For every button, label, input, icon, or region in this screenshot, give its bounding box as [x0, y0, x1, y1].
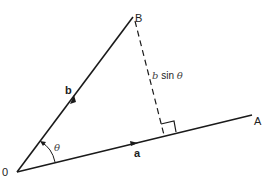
point-a-label: A — [254, 115, 262, 127]
vector-a-label: a — [134, 147, 141, 159]
vector-diagram: 0 B A b a θ b sin θ — [0, 0, 268, 183]
theta-label: θ — [54, 142, 60, 153]
b-sin-theta-sin: sin — [158, 70, 176, 81]
arrow-a-icon — [130, 141, 138, 146]
origin-label: 0 — [2, 166, 8, 178]
b-sin-theta-label: b sin θ — [152, 70, 183, 81]
point-b-label: B — [135, 12, 142, 24]
vector-b-label: b — [65, 84, 72, 96]
b-sin-theta-theta: θ — [177, 70, 183, 81]
